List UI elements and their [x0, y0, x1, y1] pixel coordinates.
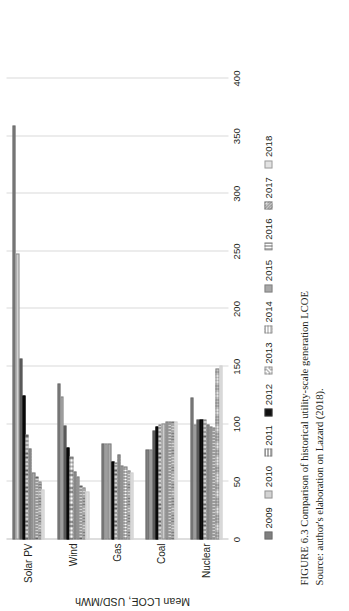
tick-label-50: 50 [230, 476, 241, 487]
tick-label-100: 100 [230, 416, 241, 432]
bar-nuclear-2010 [193, 424, 196, 539]
bar-coal-2018 [174, 421, 177, 539]
value-axis-ticks: 050100150200250300350400 [228, 78, 250, 539]
plot-region [6, 78, 228, 539]
legend-swatch-2015 [264, 284, 272, 292]
category-label-solar-pv: Solar PV [23, 543, 34, 582]
bar-groups [6, 78, 228, 539]
bar-gas-2018 [130, 472, 133, 539]
legend-label-2017: 2017 [262, 177, 273, 198]
bar-nuclear-2013 [203, 419, 206, 539]
legend-swatch-2012 [264, 408, 272, 416]
bar-solar-pv-2018 [41, 489, 44, 539]
bar-solar-pv-2016 [35, 476, 38, 539]
chart-area: Mean LCOE, USD/MWh Solar PVWindGasCoalNu… [6, 78, 258, 583]
legend-item-2014[interactable]: 2014 [262, 301, 273, 333]
legend-label-2013: 2013 [262, 342, 273, 363]
bar-coal-2011 [152, 430, 155, 539]
legend-label-2010: 2010 [262, 465, 273, 486]
bar-gas-2010 [104, 443, 107, 539]
bar-gas-2013 [114, 462, 117, 539]
legend-item-2012[interactable]: 2012 [262, 383, 273, 415]
bar-wind-2015 [76, 476, 79, 539]
axis-title: Mean LCOE, USD/MWh [6, 589, 258, 607]
bar-gas-2017 [127, 470, 130, 539]
bar-solar-pv-2014 [28, 448, 31, 539]
chart-legend: 2009201020112012201320142015201620172018 [262, 69, 273, 539]
bar-gas-2012 [111, 461, 114, 539]
legend-item-2010[interactable]: 2010 [262, 465, 273, 497]
legend-item-2009[interactable]: 2009 [262, 507, 273, 539]
bar-wind-2018 [85, 491, 88, 539]
legend-swatch-2010 [264, 490, 272, 498]
figure-page: Mean LCOE, USD/MWh Solar PVWindGasCoalNu… [0, 0, 349, 611]
category-label-nuclear: Nuclear [200, 543, 211, 577]
bar-nuclear-2017 [215, 368, 218, 539]
legend-item-2013[interactable]: 2013 [262, 342, 273, 374]
category-label-gas: Gas [112, 543, 123, 561]
tick-label-300: 300 [230, 185, 241, 201]
legend-label-2018: 2018 [262, 135, 273, 156]
figure-caption: FIGURE 6.3 Comparison of historical util… [296, 25, 326, 585]
legend-swatch-2013 [264, 366, 272, 374]
category-axis: Solar PVWindGasCoalNuclear [6, 539, 228, 583]
legend-item-2016[interactable]: 2016 [262, 218, 273, 250]
figure-body: Mean LCOE, USD/MWh Solar PVWindGasCoalNu… [0, 0, 349, 611]
tick-label-400: 400 [230, 70, 241, 86]
bar-solar-pv-2012 [22, 395, 25, 539]
bar-coal-2009 [145, 449, 148, 539]
legend-swatch-2018 [264, 160, 272, 168]
figure-caption-text: Comparison of historical utility-scale g… [298, 291, 309, 527]
bar-wind-2016 [79, 485, 82, 539]
bar-solar-pv-2010 [15, 253, 18, 539]
legend-swatch-2009 [264, 531, 272, 539]
bar-wind-2009 [57, 383, 60, 539]
tick-label-0: 0 [230, 536, 241, 541]
bar-solar-pv-2009 [12, 125, 15, 539]
legend-item-2018[interactable]: 2018 [262, 135, 273, 167]
figure-number: FIGURE 6.3 [298, 529, 309, 585]
bar-gas-2015 [120, 465, 123, 539]
legend-label-2016: 2016 [262, 218, 273, 239]
legend-item-2017[interactable]: 2017 [262, 177, 273, 209]
tick-label-250: 250 [230, 243, 241, 259]
legend-swatch-2016 [264, 242, 272, 250]
bar-nuclear-2011 [196, 419, 199, 539]
legend-label-2012: 2012 [262, 383, 273, 404]
bar-nuclear-2018 [219, 365, 222, 539]
tick-label-150: 150 [230, 358, 241, 374]
category-label-coal: Coal [156, 543, 167, 564]
legend-swatch-2011 [264, 448, 272, 456]
legend-label-2015: 2015 [262, 259, 273, 280]
bar-wind-2013 [69, 456, 72, 539]
legend-item-2015[interactable]: 2015 [262, 259, 273, 291]
tick-label-350: 350 [230, 128, 241, 144]
bar-coal-2012 [155, 426, 158, 539]
rotated-figure-canvas: Mean LCOE, USD/MWh Solar PVWindGasCoalNu… [0, 0, 349, 611]
legend-swatch-2014 [264, 325, 272, 333]
legend-label-2011: 2011 [262, 425, 273, 446]
bar-solar-pv-2017 [38, 481, 41, 539]
bar-coal-2016 [168, 421, 171, 539]
legend-swatch-2017 [264, 201, 272, 209]
category-label-wind: Wind [67, 543, 78, 566]
legend-label-2014: 2014 [262, 301, 273, 322]
bar-nuclear-2015 [209, 426, 212, 539]
figure-source: Source: author's elaboration on Lazard (… [311, 25, 326, 585]
tick-label-200: 200 [230, 300, 241, 316]
legend-item-2011[interactable]: 2011 [262, 425, 273, 457]
bar-wind-2011 [63, 425, 66, 539]
bar-coal-2014 [161, 423, 164, 539]
legend-label-2009: 2009 [262, 507, 273, 528]
